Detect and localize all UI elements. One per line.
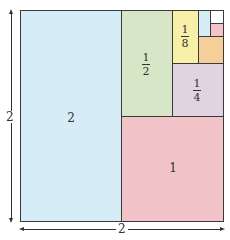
region-quarter-label: 1 4: [193, 78, 201, 103]
region-half-label: 1 2: [142, 52, 150, 77]
height-label: 2: [4, 111, 16, 123]
arrow-right-icon: [220, 227, 225, 231]
region-eighth-label: 1 8: [181, 24, 189, 49]
arrow-up-icon: [9, 9, 13, 14]
region-sixtyfourth: [210, 23, 224, 37]
region-1-label: 1: [166, 162, 180, 174]
width-label: 2: [116, 223, 128, 235]
arrow-left-icon: [19, 227, 24, 231]
arrow-down-icon: [9, 218, 13, 223]
region-sixteenth: [198, 36, 224, 64]
region-remainder: [210, 10, 224, 24]
region-2-label: 2: [64, 112, 78, 124]
